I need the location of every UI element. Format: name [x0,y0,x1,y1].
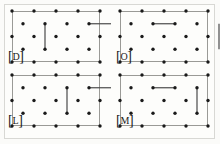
lattice-dot [65,48,68,51]
lattice-dot [10,99,13,102]
lattice-dot [43,112,46,115]
lattice-dot [76,124,79,127]
lattice-dot [54,9,57,12]
lattice-dot [32,60,35,63]
lattice-dot [10,35,13,38]
lattice-dot [151,22,154,25]
lattice-dot [129,22,132,25]
lattice-dot [98,99,101,102]
lattice-dot [140,73,143,76]
lattice-dot [43,86,46,89]
lattice-dot [184,99,187,102]
panel-m-label-letter: M [120,115,129,126]
lattice-dot [140,9,143,12]
lattice-dot [10,73,13,76]
lattice-dot [206,60,209,63]
lattice-dot [98,35,101,38]
lattice-dot [98,9,101,12]
lattice-dot [184,9,187,12]
lattice-dot [118,99,121,102]
lattice-dot [98,124,101,127]
lattice-dot [87,112,90,115]
lattice-dot [87,86,90,89]
lattice-dot [151,48,154,51]
lattice-dot [76,99,79,102]
lattice-dot [195,48,198,51]
lattice-dot [32,124,35,127]
lattice-dot [65,86,68,89]
lattice-dot [98,60,101,63]
panel-l [12,75,100,126]
panel-l-label: [L] [8,115,23,126]
lattice-dot [76,73,79,76]
lattice-dot [32,35,35,38]
lattice-dot [184,60,187,63]
lattice-dot [162,99,165,102]
lattice-dot [98,73,101,76]
panel-o-lattice [120,11,208,62]
lattice-dot [151,112,154,115]
panel-d-lattice [12,11,100,62]
lattice-dot [76,9,79,12]
panel-l-dots [10,73,101,127]
lattice-dot [162,35,165,38]
lattice-dot [43,48,46,51]
panel-o-label-bracket-close: ] [127,49,131,64]
lattice-dot [54,73,57,76]
lattice-dot [10,9,13,12]
lattice-dot [184,73,187,76]
lattice-dot [21,86,24,89]
lattice-dot [151,86,154,89]
lattice-dot [118,73,121,76]
panel-l-label-bracket-close: ] [18,113,22,128]
panel-o-label: [O] [116,51,132,62]
lattice-dot [54,99,57,102]
lattice-dot [162,60,165,63]
lattice-dot [21,22,24,25]
lattice-dot [65,22,68,25]
lattice-dot [173,86,176,89]
lattice-dot [54,35,57,38]
lattice-dot [65,112,68,115]
lattice-dot [195,112,198,115]
lattice-dot [206,35,209,38]
panel-d-dots [10,9,101,63]
panel-d-label: [D] [8,51,24,62]
lattice-figure: [D][O][L][M] [0,0,220,144]
lattice-dot [54,60,57,63]
lattice-dot [32,99,35,102]
lattice-dot [76,35,79,38]
lattice-dot [195,86,198,89]
lattice-dot [140,124,143,127]
panel-d-label-bracket-close: ] [19,49,23,64]
lattice-dot [140,60,143,63]
lattice-dot [140,35,143,38]
lattice-dot [162,9,165,12]
panel-m-label: [M] [116,115,133,126]
panel-o [120,11,208,62]
lattice-dot [43,22,46,25]
panel-m-label-bracket-close: ] [129,113,133,128]
lattice-dot [206,124,209,127]
lattice-dot [162,124,165,127]
lattice-dot [173,48,176,51]
lattice-dot [32,73,35,76]
lattice-dot [184,35,187,38]
lattice-dot [184,124,187,127]
lattice-dot [173,22,176,25]
lattice-dot [87,22,90,25]
panel-d [12,11,100,62]
lattice-dot [162,73,165,76]
lattice-dot [173,112,176,115]
lattice-dot [118,9,121,12]
lattice-dot [129,86,132,89]
lattice-dot [206,73,209,76]
lattice-dot [140,99,143,102]
panel-m-bonds [153,88,197,114]
lattice-dot [54,124,57,127]
lattice-dot [87,48,90,51]
panel-l-lattice [12,75,100,126]
lattice-dot [206,9,209,12]
lattice-dot [118,35,121,38]
lattice-dot [32,9,35,12]
